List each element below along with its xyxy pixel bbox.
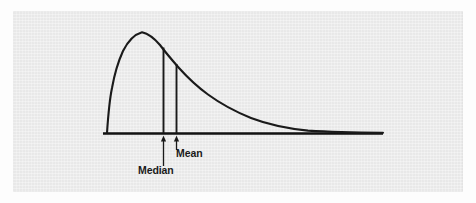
median-label: Median	[138, 165, 174, 176]
mean-label: Mean	[176, 148, 202, 159]
distribution-curve	[107, 32, 383, 133]
skewed-distribution-plot	[0, 0, 476, 203]
median-arrow-icon	[161, 135, 166, 166]
figure-root: Mean Median	[0, 0, 476, 203]
